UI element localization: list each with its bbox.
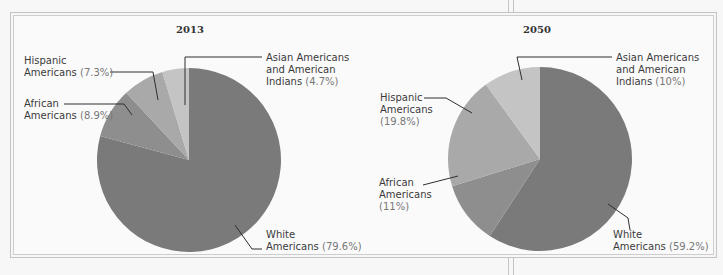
pie-charts: 2013 Asian Americans and American Indian… bbox=[0, 0, 723, 275]
label-african-2050: African Americans (11%) bbox=[379, 177, 435, 212]
pie-chart-2013: 2013 Asian Americans and American Indian… bbox=[24, 24, 362, 252]
chart-title-2050: 2050 bbox=[523, 24, 551, 35]
label-hispanic-2013: Hispanic Americans (7.3%) bbox=[24, 55, 113, 78]
label-asian-2013: Asian Americans and American Indians (4.… bbox=[266, 52, 352, 87]
label-african-2013: African Americans (8.9%) bbox=[24, 98, 113, 121]
label-hispanic-2050: Hispanic Americans (19.8%) bbox=[380, 92, 436, 127]
chart-title-2013: 2013 bbox=[176, 24, 204, 35]
pie-2013-slices bbox=[97, 68, 281, 252]
label-asian-2050: Asian Americans and American Indians (10… bbox=[616, 52, 702, 87]
pie-2050-slices bbox=[448, 67, 632, 251]
label-white-2013: White Americans (79.6%) bbox=[266, 229, 362, 252]
pie-chart-2050: 2050 Asian Americans and American Indian… bbox=[379, 24, 709, 252]
label-white-2050: White Americans (59.2%) bbox=[613, 229, 709, 252]
